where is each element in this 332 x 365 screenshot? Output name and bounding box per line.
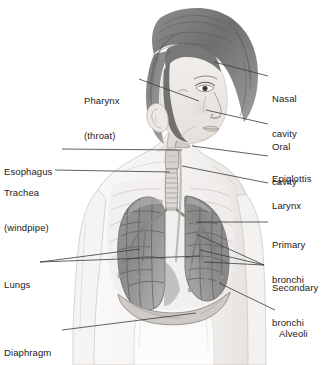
label-lungs: Lungs: [4, 256, 30, 314]
label-primary-bronchi-line1: Primary: [272, 239, 305, 251]
respiratory-system-diagram: Pharynx (throat) Esophagus Trachea (wind…: [0, 0, 332, 365]
label-alveoli: Alveoli: [279, 305, 308, 363]
label-pharynx: Pharynx (throat): [84, 72, 120, 164]
label-pharynx-line2: (throat): [84, 130, 120, 142]
label-lungs-line1: Lungs: [4, 279, 30, 291]
label-trachea-line2: (windpipe): [4, 222, 49, 234]
label-diaphragm: Diaphragm: [4, 324, 51, 365]
label-trachea-line1: Trachea: [4, 187, 49, 199]
label-diaphragm-line1: Diaphragm: [4, 347, 51, 359]
label-trachea: Trachea (windpipe): [4, 164, 49, 256]
label-secondary-bronchi-line1: Secondary: [272, 282, 318, 294]
label-nasal-cavity-line1: Nasal: [272, 93, 297, 105]
label-pharynx-line1: Pharynx: [84, 95, 120, 107]
label-larynx-line1: Larynx: [272, 200, 301, 212]
label-alveoli-line1: Alveoli: [279, 328, 308, 340]
